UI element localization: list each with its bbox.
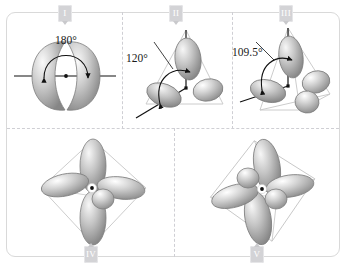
central-atom-dot [64,74,68,78]
angle-leader-line [154,42,173,69]
central-atom-dot [260,187,264,191]
panel-iv-trigonal-bipyramidal [20,132,170,252]
panel-v-octahedral [188,132,338,252]
panel-label-iv: IV [84,246,98,263]
central-atom-dot [184,86,187,89]
orbital-lobe-front [92,189,114,209]
orbital-lobe-top [276,35,306,80]
orbital-lobe-left [143,78,185,112]
panel-i-linear: 180° [8,14,122,128]
panel-label-ii: II [169,5,183,22]
panel-iii-graphic [234,14,342,128]
row-divider [7,128,339,129]
panel-divider-iv-v [174,128,175,257]
orbital-lobe-front [265,189,287,209]
angle-label-180: 180° [55,34,77,46]
orbital-lobe-top [173,37,203,81]
panel-label-i: I [58,5,72,22]
panel-ii-trigonal-planar: 120° [124,14,230,128]
vsepr-geometry-figure: 180° 120° [0,0,348,270]
orbital-lobe-left [248,76,288,106]
angle-label-109: 109.5° [232,46,262,58]
panel-iii-tetrahedral: 109.5° [234,14,342,128]
orbital-lobe-right [191,76,225,104]
panel-divider-ii-iii [232,12,233,129]
orbital-lobe-back [237,168,259,188]
panel-iv-graphic [20,132,170,252]
panel-label-v: V [250,246,264,263]
panel-v-graphic [188,132,338,252]
central-atom-dot [90,186,94,190]
panel-label-iii: III [279,5,293,22]
panel-divider-i-ii [122,12,123,129]
central-atom-dot [286,84,289,87]
angle-label-120: 120° [126,52,148,64]
panel-i-graphic [8,14,122,128]
panel-ii-graphic [124,14,230,128]
